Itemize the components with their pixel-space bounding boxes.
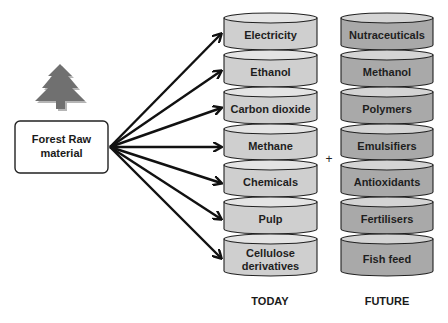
today-item-label: Carbon dioxide <box>230 103 310 115</box>
today-item-label: Electricity <box>244 29 297 41</box>
arrow-to-cellulose-derivatives <box>110 147 221 258</box>
future-item-1: Methanol <box>341 50 433 87</box>
today-item-label-line2: derivatives <box>242 260 299 272</box>
arrow-to-carbon-dioxide <box>110 108 221 147</box>
future-item-0: Nutraceuticals <box>341 13 433 50</box>
arrow-to-pulp <box>110 147 221 219</box>
plus-connector: + <box>325 152 332 166</box>
today-item-label: Pulp <box>259 213 283 225</box>
tree-icon <box>35 64 87 111</box>
future-item-6: Fish feed <box>341 234 433 276</box>
future-item-2: Polymers <box>341 87 433 124</box>
today-item-3: Methane <box>224 124 317 160</box>
future-item-5: Fertilisers <box>341 197 433 234</box>
future-item-label: Methanol <box>363 66 411 78</box>
source-label-line1: Forest Raw <box>32 133 92 145</box>
future-stack: NutraceuticalsMethanolPolymersEmulsifier… <box>341 13 433 276</box>
source-box: Forest Raw material <box>15 121 108 173</box>
forest-products-diagram: Forest Raw material ElectricityEthanolCa… <box>0 0 448 323</box>
source-label-line2: material <box>40 147 82 159</box>
today-item-6: Cellulosederivatives <box>224 234 317 276</box>
today-item-label: Methane <box>248 140 293 152</box>
future-item-label: Fertilisers <box>361 213 414 225</box>
future-item-4: Antioxidants <box>341 160 433 197</box>
today-item-label: Chemicals <box>243 176 298 188</box>
future-item-3: Emulsifiers <box>341 124 433 160</box>
today-item-label: Cellulose <box>246 247 295 259</box>
today-item-4: Chemicals <box>224 160 317 197</box>
future-item-label: Polymers <box>362 103 412 115</box>
today-item-0: Electricity <box>224 13 317 50</box>
future-item-label: Fish feed <box>363 253 411 265</box>
arrow-to-ethanol <box>110 71 221 147</box>
today-item-5: Pulp <box>224 197 317 234</box>
arrows <box>110 34 221 258</box>
today-label: TODAY <box>251 295 289 307</box>
future-item-label: Antioxidants <box>354 176 421 188</box>
future-label: FUTURE <box>365 295 410 307</box>
arrow-to-electricity <box>110 34 221 147</box>
today-item-1: Ethanol <box>224 50 317 87</box>
today-stack: ElectricityEthanolCarbon dioxideMethaneC… <box>224 13 317 276</box>
future-item-label: Emulsifiers <box>357 140 416 152</box>
future-item-label: Nutraceuticals <box>349 29 425 41</box>
today-item-label: Ethanol <box>250 66 290 78</box>
today-item-2: Carbon dioxide <box>224 87 317 124</box>
